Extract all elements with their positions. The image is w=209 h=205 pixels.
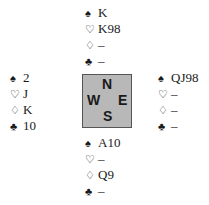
north-hand: ♠K ♡K98 ♢– ♣– [85,5,120,69]
spade-icon: ♠ [10,70,23,86]
compass-east: E [118,92,127,108]
diamond-icon: ♢ [158,102,171,118]
south-diamonds-row: ♢Q9 [85,167,120,183]
south-clubs-row: ♣– [85,183,120,199]
west-clubs-row: ♣10 [10,118,36,134]
compass-north: N [102,76,112,92]
heart-icon: ♡ [10,86,23,102]
west-hearts: J [23,86,28,102]
east-clubs: – [171,118,178,134]
north-diamonds-row: ♢– [85,37,120,53]
north-spades-row: ♠K [85,5,120,21]
compass-south: S [103,108,112,124]
south-spades: A10 [98,135,120,151]
east-hand: ♠QJ98 ♡– ♢– ♣– [158,70,198,134]
club-icon: ♣ [85,183,98,199]
heart-icon: ♡ [158,86,171,102]
west-diamonds: K [23,102,32,118]
east-hearts-row: ♡– [158,86,198,102]
north-clubs-row: ♣– [85,53,120,69]
club-icon: ♣ [10,118,23,134]
west-diamonds-row: ♢K [10,102,36,118]
compass-box: N W E S [82,74,132,128]
north-clubs: – [98,53,105,69]
north-diamonds: – [98,37,105,53]
heart-icon: ♡ [85,151,98,167]
east-clubs-row: ♣– [158,118,198,134]
club-icon: ♣ [158,118,171,134]
north-hearts-row: ♡K98 [85,21,120,37]
west-hearts-row: ♡J [10,86,36,102]
north-spades: K [98,5,107,21]
south-hearts-row: ♡– [85,151,120,167]
south-diamonds: Q9 [98,167,114,183]
club-icon: ♣ [85,53,98,69]
heart-icon: ♡ [85,21,98,37]
east-diamonds-row: ♢– [158,102,198,118]
east-spades-row: ♠QJ98 [158,70,198,86]
north-hearts: K98 [98,21,120,37]
east-spades: QJ98 [171,70,198,86]
spade-icon: ♠ [85,135,98,151]
east-hearts: – [171,86,178,102]
diamond-icon: ♢ [85,37,98,53]
diamond-icon: ♢ [10,102,23,118]
west-hand: ♠2 ♡J ♢K ♣10 [10,70,36,134]
south-clubs: – [98,183,105,199]
west-spades: 2 [23,70,30,86]
spade-icon: ♠ [85,5,98,21]
south-hearts: – [98,151,105,167]
spade-icon: ♠ [158,70,171,86]
south-spades-row: ♠A10 [85,135,120,151]
diamond-icon: ♢ [85,167,98,183]
west-clubs: 10 [23,118,36,134]
west-spades-row: ♠2 [10,70,36,86]
south-hand: ♠A10 ♡– ♢Q9 ♣– [85,135,120,199]
east-diamonds: – [171,102,178,118]
compass-west: W [87,92,100,108]
